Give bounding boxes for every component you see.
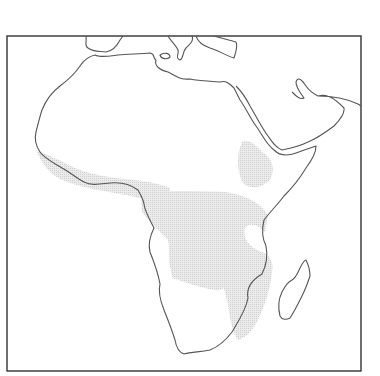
madagascar	[279, 260, 310, 319]
africa-range-map	[0, 0, 380, 376]
arabian-peninsula	[236, 79, 361, 150]
shaded-range	[36, 141, 273, 340]
